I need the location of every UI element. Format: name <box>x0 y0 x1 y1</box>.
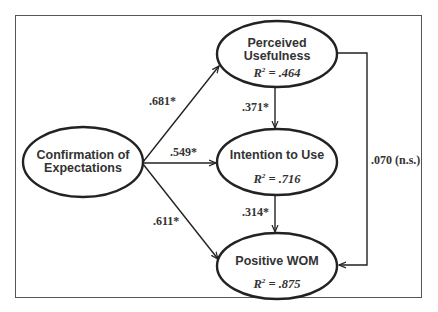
node-confirmation-line2: Expectations <box>36 162 129 175</box>
coef-conf-to-wom: .611* <box>153 214 179 229</box>
r2-value: = .464 <box>265 66 300 80</box>
coef-conf-to-pu: .681* <box>149 94 176 109</box>
coef-itu-to-wom: .314* <box>242 205 269 220</box>
node-perceived-usefulness-label: Perceived Usefulness <box>244 37 311 63</box>
node-intention-label: Intention to Use <box>230 149 324 162</box>
diagram-canvas: Confirmation of Expectations Perceived U… <box>0 0 438 312</box>
node-itu-line1: Intention to Use <box>230 149 324 162</box>
node-confirmation-label: Confirmation of Expectations <box>36 149 129 175</box>
node-wom-label: Positive WOM <box>235 255 318 268</box>
coef-conf-to-itu: .549* <box>170 145 197 160</box>
node-pu-r2: R2 = .464 <box>253 66 300 81</box>
node-wom-r2: R2 = .875 <box>253 277 300 292</box>
coef-pu-to-itu: .371* <box>242 100 269 115</box>
r2-value: = .875 <box>265 277 300 291</box>
node-pu-line2: Usefulness <box>244 50 311 63</box>
edge-conf-to-wom <box>143 164 218 259</box>
r2-value: = .716 <box>265 172 300 186</box>
node-wom-line1: Positive WOM <box>235 255 318 268</box>
edge-pu-to-wom <box>337 53 367 265</box>
coef-pu-to-wom: .070 (n.s.) <box>371 153 420 168</box>
node-itu-r2: R2 = .716 <box>253 172 300 187</box>
